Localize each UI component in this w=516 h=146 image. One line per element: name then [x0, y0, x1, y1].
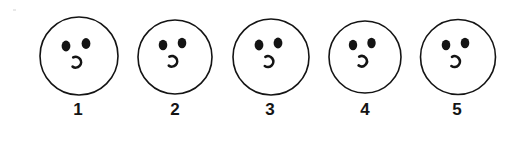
left-eye-icon	[62, 41, 71, 52]
face-4	[319, 12, 411, 104]
face-label-3: 3	[224, 100, 316, 120]
face-group-1: 1	[32, 0, 124, 146]
left-eye-icon	[255, 40, 264, 51]
face-label-1: 1	[32, 100, 124, 120]
face-group-5: 5	[411, 0, 503, 146]
right-eye-icon	[274, 38, 283, 49]
face-3	[224, 12, 316, 104]
face-label-5: 5	[411, 100, 503, 120]
face-outline-circle	[40, 17, 118, 95]
face-label-2: 2	[129, 100, 221, 120]
left-eye-icon	[349, 40, 357, 50]
face-5	[411, 12, 503, 104]
face-2	[129, 12, 221, 104]
face-group-3: 3	[224, 0, 316, 146]
left-eye-icon	[159, 40, 168, 51]
face-group-4: 4	[319, 0, 411, 146]
right-eye-icon	[178, 38, 187, 49]
right-eye-icon	[82, 38, 91, 49]
figure-canvas: 1 2 3 4	[0, 0, 516, 146]
face-1	[32, 12, 124, 104]
left-eye-icon	[442, 40, 451, 51]
stray-speck	[13, 9, 16, 11]
right-eye-icon	[461, 38, 470, 49]
face-group-2: 2	[129, 0, 221, 146]
face-label-4: 4	[319, 100, 411, 120]
right-eye-icon	[367, 38, 375, 48]
